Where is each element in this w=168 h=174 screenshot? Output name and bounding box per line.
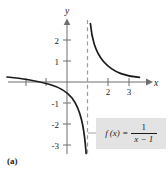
y-tick-label-neg2: -2 — [52, 120, 60, 130]
formula-function-name: f — [105, 129, 108, 138]
formula-callout: f(x) = 1 x − 1 — [96, 118, 166, 149]
formula-expression: f(x) = 1 x − 1 — [105, 123, 157, 145]
y-tick-label-neg3: -3 — [52, 141, 60, 151]
figure-container: 2 3 2 1 -1 -2 -3 x y f(x) = 1 x − 1 — [0, 0, 168, 174]
y-axis-label: y — [64, 6, 70, 16]
formula-fraction: 1 x − 1 — [131, 123, 157, 145]
fraction-denominator: x − 1 — [132, 135, 155, 144]
x-tick-label-3: 3 — [127, 87, 132, 97]
panel-label: (a) — [7, 156, 18, 166]
x-axis-label: x — [153, 78, 159, 88]
formula-equals-sign: = — [123, 129, 128, 138]
y-tick-label-1: 1 — [55, 57, 60, 67]
y-tick-label-2: 2 — [55, 36, 60, 46]
curve-left-branch — [7, 77, 86, 154]
fraction-numerator: 1 — [139, 123, 150, 132]
formula-argument: (x) — [110, 129, 120, 138]
curve-right-branch — [90, 24, 139, 78]
y-tick-label-neg1: -1 — [52, 99, 60, 109]
y-axis — [64, 19, 71, 155]
x-tick-label-2: 2 — [106, 87, 111, 97]
